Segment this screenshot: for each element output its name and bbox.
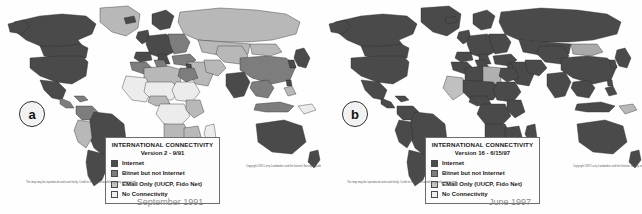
legend-subtitle: Version 2 - 9/91: [110, 149, 215, 157]
panel-label-b: b: [342, 101, 368, 127]
panel-label-a: a: [19, 101, 45, 127]
panel-june-1997: b INTERNATIONAL CONNECTIVITY Version 16 …: [321, 0, 642, 196]
legend-label-bitnet: Bitnet but not Internet: [122, 170, 185, 177]
legend-item-bitnet: Bitnet but not Internet: [110, 169, 215, 180]
copyright-credit: Copyright 1991 Larry Landweber and the I…: [246, 165, 292, 168]
legend-label-internet: Internet: [442, 160, 464, 167]
caption-september-1991: September 1991: [60, 197, 280, 207]
legend-swatch-bitnet: [431, 170, 438, 177]
legend-items: Internet Bitnet but not Internet EMail O…: [110, 158, 215, 200]
reproduction-note: The map may be reproduced and used freel…: [26, 181, 86, 184]
legend-item-internet: Internet: [430, 158, 535, 169]
world-connectivity-figure: a INTERNATIONAL CONNECTIVITY Version 2 -…: [0, 0, 642, 214]
legend-label-internet: Internet: [122, 160, 144, 167]
legend-swatch-internet: [111, 160, 118, 167]
legend-item-bitnet: Bitnet but not Internet: [430, 169, 535, 180]
legend-label-bitnet: Bitnet but not Internet: [442, 170, 505, 177]
legend-swatch-internet: [431, 160, 438, 167]
panel-september-1991: a INTERNATIONAL CONNECTIVITY Version 2 -…: [0, 0, 321, 196]
reproduction-note: The map may be reproduced and used freel…: [347, 181, 407, 184]
legend-item-internet: Internet: [110, 158, 215, 169]
legend-items: Internet Bitnet but not Internet EMail O…: [430, 158, 535, 200]
legend-swatch-bitnet: [111, 170, 118, 177]
copyright-credit: Copyright 1997 Larry Landweber and the I…: [573, 165, 619, 168]
legend-title: INTERNATIONAL CONNECTIVITY: [110, 141, 215, 149]
legend-subtitle: Version 16 - 6/15/97: [430, 149, 535, 157]
legend-title: INTERNATIONAL CONNECTIVITY: [430, 141, 535, 149]
legend-1997: INTERNATIONAL CONNECTIVITY Version 16 - …: [425, 137, 540, 204]
legend-1991: INTERNATIONAL CONNECTIVITY Version 2 - 9…: [105, 137, 220, 204]
caption-june-1997: June 1997: [400, 197, 620, 207]
